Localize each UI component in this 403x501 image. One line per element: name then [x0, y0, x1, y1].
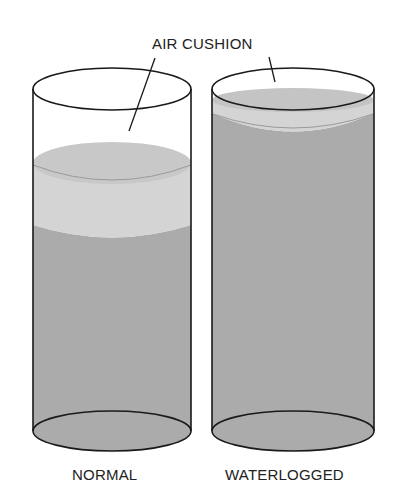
normal-cylinder [33, 68, 191, 451]
soil-diagram [0, 0, 403, 501]
normal-label: NORMAL [72, 466, 137, 483]
air-cushion-label: AIR CUSHION [152, 35, 253, 52]
waterlogged-cylinder [212, 68, 374, 451]
waterlogged-label: WATERLOGGED [225, 466, 344, 483]
